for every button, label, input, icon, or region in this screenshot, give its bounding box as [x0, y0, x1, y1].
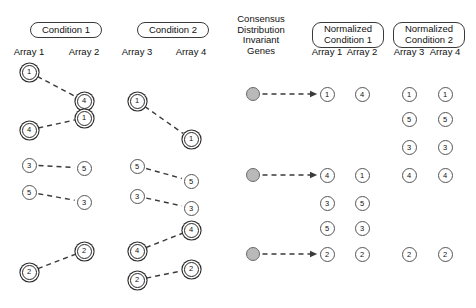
gene-link: [37, 76, 75, 96]
column-caption-array1: Array 1: [14, 46, 45, 57]
gene-node-narray3-0: 1: [402, 87, 417, 102]
gene-link: [146, 198, 181, 206]
gene-node-array3-4: 2: [130, 273, 145, 288]
gene-link: [38, 194, 74, 201]
gene-node-narray1-0: 1: [320, 87, 335, 102]
gene-node-array4-1: 5: [184, 174, 199, 189]
consensus-caption-line-4: Genes: [237, 46, 285, 57]
gene-node-narray1-3: 5: [320, 221, 335, 236]
gene-node-array4-4: 2: [184, 262, 199, 277]
gene-node-array2-4: 2: [77, 244, 92, 259]
normalized-condition-1-line2: Condition 1: [319, 35, 377, 46]
column-caption-narray4: Array 4: [430, 46, 461, 57]
condition-2-header: Condition 2: [137, 22, 209, 38]
gene-node-array4-2: 3: [184, 201, 199, 216]
consensus-gene-node: [246, 168, 260, 182]
consensus-gene-node: [246, 87, 260, 101]
gene-node-array1-1: 4: [22, 123, 37, 138]
gene-node-narray3-4: 2: [402, 247, 417, 262]
consensus-caption: Consensus Distribution Invariant Genes: [237, 14, 285, 56]
consensus-caption-line-3: Invariant: [237, 35, 285, 46]
gene-node-array2-1: 1: [77, 111, 92, 126]
gene-node-narray4-2: 3: [438, 140, 453, 155]
gene-node-array4-3: 4: [184, 223, 199, 238]
normalized-condition-2-line1: Normalized: [400, 24, 458, 35]
gene-node-narray4-3: 4: [438, 168, 453, 183]
gene-node-array2-2: 5: [77, 161, 92, 176]
figure-canvas: Condition 1 Condition 2 Normalized Condi…: [0, 0, 476, 308]
gene-node-narray3-1: 5: [402, 112, 417, 127]
gene-link: [38, 120, 74, 128]
gene-node-array3-1: 5: [130, 159, 145, 174]
gene-node-array1-2: 3: [22, 158, 37, 173]
column-caption-array2: Array 2: [69, 46, 100, 57]
gene-node-array2-3: 3: [77, 195, 92, 210]
condition-1-label: Condition 1: [42, 24, 90, 35]
gene-node-array3-2: 3: [130, 189, 145, 204]
gene-node-narray3-2: 3: [402, 140, 417, 155]
column-caption-narray1: Array 1: [312, 46, 343, 57]
gene-node-narray2-1: 1: [355, 168, 370, 183]
gene-node-narray1-4: 2: [320, 247, 335, 262]
gene-node-array1-3: 5: [22, 185, 37, 200]
gene-node-narray4-4: 2: [438, 247, 453, 262]
consensus-gene-node: [246, 247, 260, 261]
column-caption-narray3: Array 3: [394, 46, 425, 57]
gene-link: [38, 254, 75, 268]
column-caption-array4: Array 4: [176, 46, 207, 57]
gene-node-array1-4: 2: [22, 265, 37, 280]
condition-1-header: Condition 1: [30, 22, 102, 38]
gene-node-array3-0: 1: [130, 94, 145, 109]
gene-link: [38, 166, 74, 168]
gene-node-array2-0: 4: [77, 94, 92, 109]
gene-node-narray2-0: 4: [355, 87, 370, 102]
gene-node-array1-0: 1: [22, 65, 37, 80]
gene-link: [146, 169, 182, 179]
normalized-condition-2-line2: Condition 2: [400, 35, 458, 46]
gene-node-narray1-2: 3: [320, 196, 335, 211]
gene-node-narray4-1: 5: [438, 112, 453, 127]
gene-node-narray4-0: 1: [438, 87, 453, 102]
column-caption-narray2: Array 2: [347, 46, 378, 57]
gene-node-narray1-1: 4: [320, 168, 335, 183]
gene-node-narray3-3: 4: [402, 168, 417, 183]
consensus-caption-line-1: Consensus: [237, 14, 285, 25]
column-caption-array3: Array 3: [122, 46, 153, 57]
normalized-condition-1-header: Normalized Condition 1: [312, 22, 384, 48]
gene-node-array3-3: 4: [130, 244, 145, 259]
normalized-condition-2-header: Normalized Condition 2: [393, 22, 465, 48]
gene-link: [145, 106, 183, 133]
gene-node-narray2-2: 5: [355, 196, 370, 211]
gene-node-narray2-3: 3: [355, 221, 370, 236]
gene-node-narray2-4: 2: [355, 247, 370, 262]
gene-node-array4-0: 1: [184, 132, 199, 147]
gene-link: [146, 233, 182, 247]
normalized-condition-1-line1: Normalized: [319, 24, 377, 35]
gene-link: [146, 271, 181, 278]
condition-2-label: Condition 2: [149, 24, 197, 35]
